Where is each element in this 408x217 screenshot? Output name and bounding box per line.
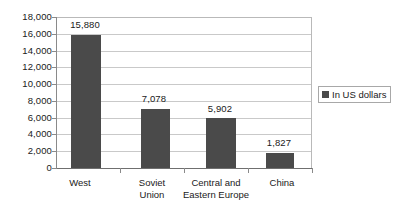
xtick-mark-2 <box>184 168 185 173</box>
legend: In US dollars <box>318 86 391 103</box>
ytick-mark-4000 <box>52 134 57 135</box>
ytick-mark-0 <box>52 168 57 169</box>
ytick-label-16000: 16,000 <box>22 29 52 39</box>
ytick-label-6000: 6,000 <box>28 113 52 123</box>
bar-china <box>266 153 294 168</box>
ytick-mark-10000 <box>52 84 57 85</box>
xtick-mark-1 <box>120 168 121 173</box>
legend-swatch-icon <box>322 91 329 98</box>
ytick-mark-12000 <box>52 67 57 68</box>
legend-label-in-us-dollars: In US dollars <box>332 89 386 100</box>
value-label-china: 1,827 <box>239 138 319 148</box>
xtick-mark-4 <box>312 168 313 173</box>
xtick-mark-3 <box>248 168 249 173</box>
ytick-mark-16000 <box>52 34 57 35</box>
value-label-central-and-eastern-europe: 5,902 <box>180 104 260 114</box>
xlabel-west: West <box>48 177 112 189</box>
xlabel-china: China <box>252 177 312 189</box>
gridline-18000 <box>57 17 311 18</box>
bar-chart: 18,000 16,000 14,000 12,000 10,000 8,000… <box>0 0 408 217</box>
ytick-label-10000: 10,000 <box>22 79 52 89</box>
value-label-soviet-union: 7,078 <box>114 94 194 104</box>
ytick-label-2000: 2,000 <box>28 146 52 156</box>
ytick-label-8000: 8,000 <box>28 96 52 106</box>
bar-west <box>71 35 101 168</box>
xlabel-central-and-eastern-europe: Central and Eastern Europe <box>180 177 252 200</box>
ytick-mark-2000 <box>52 151 57 152</box>
value-label-west: 15,880 <box>45 20 125 30</box>
bar-soviet-union <box>141 109 170 168</box>
ytick-mark-8000 <box>52 101 57 102</box>
ytick-label-14000: 14,000 <box>22 46 52 56</box>
ytick-mark-6000 <box>52 118 57 119</box>
xlabel-soviet-union: Soviet Union <box>120 177 184 200</box>
ytick-label-12000: 12,000 <box>22 62 52 72</box>
ytick-mark-18000 <box>52 17 57 18</box>
ytick-mark-14000 <box>52 51 57 52</box>
ytick-label-4000: 4,000 <box>28 129 52 139</box>
bar-central-and-eastern-europe <box>206 118 236 168</box>
ytick-label-0: 0 <box>47 163 52 173</box>
